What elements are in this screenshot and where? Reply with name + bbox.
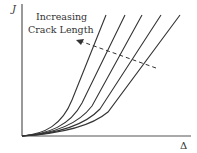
annotation-line2: Crack Length	[28, 24, 94, 35]
x-axis-label: Δ	[180, 140, 187, 151]
chart-svg: J Δ Increasing Crack Length	[0, 0, 197, 153]
chart: J Δ Increasing Crack Length	[0, 0, 197, 153]
annotation-line1: Increasing	[36, 11, 87, 22]
y-axis-label: J	[10, 3, 17, 14]
arrow-line	[80, 41, 156, 68]
